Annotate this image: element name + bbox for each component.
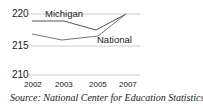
- line-chart: 220 215 210 2002 2003 2005 2007 Michigan…: [0, 0, 203, 88]
- y-tick-210: 210: [12, 70, 29, 80]
- source-note: Source: National Center for Education St…: [10, 92, 203, 103]
- series-label-national: National: [97, 35, 132, 45]
- y-tick-220: 220: [12, 9, 29, 19]
- series-label-michigan: Michigan: [45, 9, 83, 19]
- x-tick-2007: 2007: [119, 81, 137, 89]
- x-tick-2003: 2003: [55, 81, 73, 89]
- x-tick-2002: 2002: [24, 81, 42, 89]
- y-tick-215: 215: [12, 41, 29, 51]
- x-tick-2005: 2005: [89, 81, 107, 89]
